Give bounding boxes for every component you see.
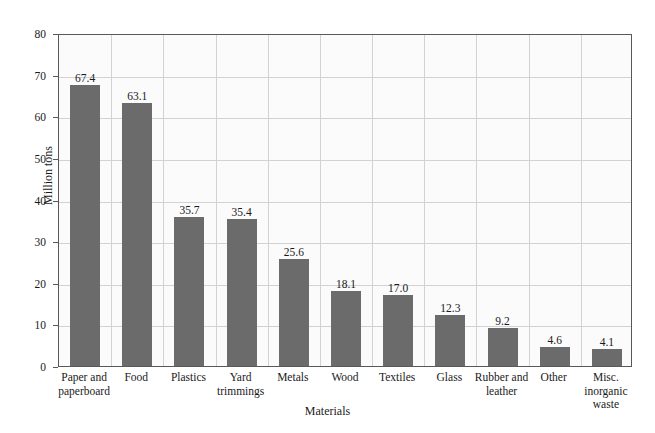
bar-value-label: 4.1 (579, 336, 635, 349)
gridline-vertical (268, 35, 269, 366)
bar-value-label: 17.0 (370, 282, 426, 295)
bar (592, 349, 622, 366)
bar-value-label: 4.6 (527, 334, 583, 347)
y-tick-label: 60 (24, 111, 46, 123)
gridline-vertical (372, 35, 373, 366)
x-tick-label-line: paperboard (52, 385, 116, 399)
bar (331, 291, 361, 366)
gridline-vertical (163, 35, 164, 366)
y-tick-mark (53, 201, 58, 202)
y-tick-mark (53, 117, 58, 118)
gridline-vertical (216, 35, 217, 366)
y-tick-mark (53, 159, 58, 160)
y-tick-label: 70 (24, 70, 46, 82)
bar-chart-figure: 67.463.135.735.425.618.117.012.39.24.64.… (0, 0, 655, 433)
y-tick-label: 50 (24, 153, 46, 165)
bar (70, 85, 100, 366)
x-axis-title: Materials (0, 404, 655, 419)
bar-value-label: 12.3 (422, 302, 478, 315)
y-tick-label: 80 (24, 28, 46, 40)
y-tick-mark (53, 76, 58, 77)
bar-value-label: 67.4 (57, 72, 113, 85)
y-tick-mark (53, 242, 58, 243)
plot-area: 67.463.135.735.425.618.117.012.39.24.64.… (58, 34, 632, 367)
bar (122, 103, 152, 366)
bar (383, 295, 413, 366)
x-tick-label-line: Misc. (574, 371, 638, 385)
y-tick-label: 40 (24, 195, 46, 207)
bar-value-label: 35.7 (161, 204, 217, 217)
gridline-vertical (581, 35, 582, 366)
gridline-vertical (424, 35, 425, 366)
y-tick-mark (53, 367, 58, 368)
x-tick-label-line: inorganic (574, 385, 638, 399)
gridline-vertical (320, 35, 321, 366)
bar (540, 347, 570, 366)
y-tick-label: 0 (24, 361, 46, 373)
y-tick-mark (53, 34, 58, 35)
bar (279, 259, 309, 366)
bar (227, 219, 257, 366)
bar-value-label: 18.1 (318, 278, 374, 291)
bar (435, 315, 465, 366)
y-tick-label: 10 (24, 319, 46, 331)
gridline-horizontal (59, 77, 631, 78)
y-tick-mark (53, 325, 58, 326)
y-tick-label: 20 (24, 278, 46, 290)
bar-value-label: 63.1 (109, 90, 165, 103)
bar (174, 217, 204, 366)
y-tick-label: 30 (24, 236, 46, 248)
bar (488, 328, 518, 366)
y-axis-title: Million tons (41, 116, 56, 236)
bar-value-label: 35.4 (214, 206, 270, 219)
bar-value-label: 25.6 (266, 246, 322, 259)
x-tick-label-line: leather (469, 385, 533, 399)
y-tick-mark (53, 284, 58, 285)
bar-value-label: 9.2 (475, 315, 531, 328)
x-tick-label-line: trimmings (209, 385, 273, 399)
